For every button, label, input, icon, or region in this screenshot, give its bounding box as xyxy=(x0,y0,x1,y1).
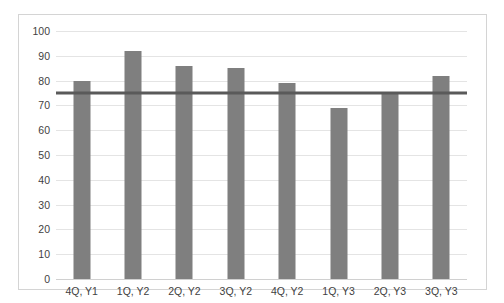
bar[interactable] xyxy=(279,83,296,279)
y-axis-tick-label: 30 xyxy=(38,199,50,210)
x-axis-tick-label: 3Q, Y3 xyxy=(425,286,458,297)
reference-line xyxy=(56,92,467,95)
bar-slot: 3Q, Y2 xyxy=(210,31,261,279)
gridline-0 xyxy=(56,279,467,280)
x-axis-tick-label: 2Q, Y2 xyxy=(168,286,201,297)
y-axis-tick-label: 90 xyxy=(38,51,50,62)
bar-slot: 1Q, Y2 xyxy=(107,31,158,279)
bar[interactable] xyxy=(73,81,90,279)
x-axis-tick-label: 1Q, Y2 xyxy=(117,286,150,297)
chart-frame: 0102030405060708090100 4Q, Y11Q, Y22Q, Y… xyxy=(18,14,487,290)
x-axis-tick-label: 4Q, Y2 xyxy=(271,286,304,297)
bar-slot: 4Q, Y1 xyxy=(56,31,107,279)
y-axis-tick-label: 20 xyxy=(38,224,50,235)
x-axis-tick-label: 1Q, Y3 xyxy=(322,286,355,297)
bar[interactable] xyxy=(433,76,450,279)
x-axis-tick-label: 2Q, Y3 xyxy=(374,286,407,297)
bar[interactable] xyxy=(176,66,193,279)
x-axis-tick-label: 3Q, Y2 xyxy=(220,286,253,297)
y-axis-tick-label: 40 xyxy=(38,175,50,186)
y-axis-tick-label: 50 xyxy=(38,150,50,161)
bar[interactable] xyxy=(125,51,142,279)
bar[interactable] xyxy=(227,68,244,279)
y-axis-tick-label: 60 xyxy=(38,125,50,136)
y-axis-tick-label: 0 xyxy=(44,274,50,285)
bar[interactable] xyxy=(381,93,398,279)
bar[interactable] xyxy=(330,108,347,279)
plot-area: 0102030405060708090100 4Q, Y11Q, Y22Q, Y… xyxy=(56,31,467,279)
bar-slot: 3Q, Y3 xyxy=(416,31,467,279)
y-axis-tick-label: 10 xyxy=(38,249,50,260)
bar-slot: 2Q, Y2 xyxy=(159,31,210,279)
bar-slot: 4Q, Y2 xyxy=(262,31,313,279)
y-axis-tick-label: 100 xyxy=(32,26,50,37)
bar-slot: 1Q, Y3 xyxy=(313,31,364,279)
x-axis-tick-label: 4Q, Y1 xyxy=(65,286,98,297)
bars-group: 4Q, Y11Q, Y22Q, Y23Q, Y24Q, Y21Q, Y32Q, … xyxy=(56,31,467,279)
y-axis-tick-label: 70 xyxy=(38,100,50,111)
bar-slot: 2Q, Y3 xyxy=(364,31,415,279)
y-axis-tick-label: 80 xyxy=(38,75,50,86)
